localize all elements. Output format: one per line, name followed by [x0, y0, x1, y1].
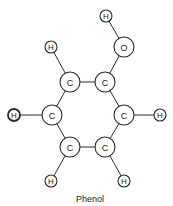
atom-h-h_r: H: [154, 109, 166, 121]
phenol-structure-diagram: HOHCCHCCHCCHH Phenol: [0, 0, 173, 206]
atom-label: C: [102, 78, 109, 88]
atom-label: C: [49, 111, 56, 121]
diagram-caption: Phenol: [76, 194, 104, 204]
atom-c-c6: C: [42, 105, 62, 125]
atom-c-c2: C: [95, 72, 115, 92]
atom-c-c5: C: [60, 137, 80, 157]
atom-label: H: [121, 177, 127, 186]
atom-label: O: [120, 43, 127, 53]
atom-label: C: [67, 143, 74, 153]
atom-o-o: O: [114, 37, 134, 57]
atom-c-c3: C: [114, 105, 134, 125]
atom-label: C: [67, 78, 74, 88]
bond-lines: [14, 16, 160, 181]
atom-h-h_l: H: [8, 109, 20, 121]
atoms: HOHCCHCCHCCHH: [8, 10, 166, 187]
atom-c-c1: C: [60, 72, 80, 92]
atom-c-c4: C: [95, 137, 115, 157]
atom-label: C: [102, 143, 109, 153]
atom-h-h_br: H: [118, 175, 130, 187]
atom-h-h_oh: H: [100, 10, 112, 22]
atom-label: H: [48, 177, 54, 186]
atom-label: H: [11, 111, 17, 120]
atom-h-h_bl: H: [45, 175, 57, 187]
atom-h-h_ul: H: [45, 41, 57, 53]
atom-label: H: [157, 111, 163, 120]
atom-label: C: [121, 111, 128, 121]
atom-label: H: [48, 43, 54, 52]
atom-label: H: [103, 12, 109, 21]
